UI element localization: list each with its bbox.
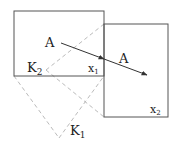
dashed-k1-left [14, 76, 59, 138]
label-a-right: A [118, 51, 129, 66]
dashed-k1-right [59, 76, 104, 138]
label-x2: x2 [150, 103, 161, 117]
dashed-k2-top [46, 24, 104, 70]
dashed-lines [14, 24, 104, 138]
label-k2: K2 [27, 60, 42, 77]
label-a-left: A [44, 35, 55, 50]
label-x1: x1 [88, 62, 99, 76]
arrow-segment-1 [61, 43, 104, 59]
label-k1: K1 [70, 123, 85, 140]
diagram-canvas: A A K2 K1 x1 x2 [0, 0, 174, 147]
dashed-k2-bottom [46, 70, 104, 117]
